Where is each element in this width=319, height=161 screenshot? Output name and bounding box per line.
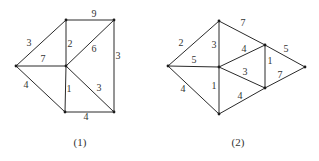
- edge-weight-label: 3: [243, 66, 248, 77]
- edge-weight-label: 9: [92, 8, 97, 19]
- edge-weight-label: 1: [212, 80, 217, 91]
- vertex-B: [65, 19, 68, 22]
- edge-weight-label: 3: [27, 37, 32, 48]
- edge-weight-label: 7: [278, 69, 283, 80]
- vertex-A: [15, 65, 18, 68]
- vertex-R: [264, 44, 267, 47]
- edge-weight-label: 5: [284, 43, 289, 54]
- edge-weight-label: 6: [92, 43, 97, 54]
- edge-weight-label: 3: [116, 50, 121, 61]
- edge-weight-label: 4: [242, 43, 247, 54]
- edge-P-T: [168, 66, 219, 67]
- edge-weight-label: 3: [97, 82, 102, 93]
- edge-D-F: [66, 66, 114, 112]
- weighted-graph-1: 3972634134 (1): [15, 8, 121, 148]
- edge-weight-label: 3: [212, 39, 217, 50]
- graph-2-caption: (2): [232, 136, 245, 149]
- vertex-S: [304, 66, 307, 69]
- edge-weight-label: 1: [268, 55, 273, 66]
- edge-U-S: [265, 67, 305, 88]
- vertex-C: [113, 19, 116, 22]
- weighted-graph-2: 275345137414 (2): [167, 17, 307, 148]
- edge-weight-label: 4: [181, 83, 186, 94]
- edge-D-C: [66, 20, 114, 66]
- edge-weight-label: 7: [41, 53, 46, 64]
- edge-weight-label: 2: [68, 38, 73, 49]
- vertex-D: [65, 65, 68, 68]
- vertex-V: [218, 113, 221, 116]
- graph-canvas: 3972634134 (1) 275345137414 (2): [0, 0, 319, 161]
- vertex-T: [218, 66, 221, 69]
- edge-weight-label: 4: [238, 90, 243, 101]
- edge-weight-label: 5: [192, 54, 197, 65]
- graph-2-vertices: [167, 20, 307, 116]
- graph-1-caption: (1): [74, 136, 87, 149]
- edge-weight-label: 4: [24, 79, 29, 90]
- graph-2-edges: [168, 21, 305, 114]
- vertex-F: [113, 111, 116, 114]
- edge-weight-label: 2: [179, 37, 184, 48]
- edge-weight-label: 1: [67, 83, 72, 94]
- graph-1-edge-weights: 3972634134: [24, 8, 121, 122]
- vertex-E: [64, 111, 67, 114]
- vertex-Q: [218, 20, 221, 23]
- edge-weight-label: 7: [241, 17, 246, 28]
- vertex-P: [167, 65, 170, 68]
- edge-weight-label: 4: [84, 111, 89, 122]
- vertex-U: [264, 87, 267, 90]
- graph-2-edge-weights: 275345137414: [179, 17, 289, 101]
